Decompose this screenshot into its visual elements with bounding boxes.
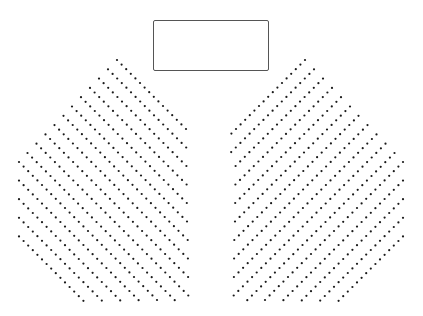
seat xyxy=(162,123,164,125)
seat xyxy=(68,175,70,177)
seat xyxy=(285,151,287,153)
seat xyxy=(352,156,354,158)
seat xyxy=(256,234,258,236)
seat xyxy=(173,225,175,227)
seat xyxy=(181,216,183,218)
seat xyxy=(96,239,98,241)
seat xyxy=(178,285,180,287)
seat xyxy=(95,147,97,149)
seat xyxy=(173,281,175,283)
seat xyxy=(150,258,152,260)
seat xyxy=(393,207,395,209)
seat xyxy=(183,290,185,292)
seat xyxy=(393,245,395,247)
seat xyxy=(282,281,284,283)
seat xyxy=(187,294,189,296)
seat xyxy=(402,180,404,182)
seat xyxy=(131,184,133,186)
seat xyxy=(342,277,344,279)
seat xyxy=(384,198,386,200)
seat xyxy=(123,212,125,214)
seat xyxy=(73,253,75,255)
seat xyxy=(310,272,312,274)
seat xyxy=(32,249,34,251)
seat xyxy=(269,276,271,278)
seat xyxy=(402,198,404,200)
seat xyxy=(279,211,281,213)
seat xyxy=(167,128,169,130)
seat xyxy=(366,180,368,182)
seat xyxy=(36,179,38,181)
seat xyxy=(176,156,178,158)
seat xyxy=(121,119,123,121)
seat xyxy=(146,235,148,237)
seat xyxy=(91,216,93,218)
seat xyxy=(351,212,353,214)
seat xyxy=(270,202,272,204)
seat xyxy=(76,110,78,112)
seat xyxy=(279,248,281,250)
seat xyxy=(239,197,241,199)
seat xyxy=(361,277,363,279)
seat xyxy=(370,268,372,270)
seat xyxy=(269,294,271,296)
seat xyxy=(101,300,103,302)
seat xyxy=(357,189,359,191)
seat xyxy=(293,216,295,218)
seat xyxy=(87,286,89,288)
seat xyxy=(46,207,48,209)
seat xyxy=(294,142,296,144)
seat xyxy=(313,87,315,89)
seat xyxy=(71,105,73,107)
seat xyxy=(77,166,79,168)
seat xyxy=(136,225,138,227)
seat xyxy=(174,299,176,301)
seat xyxy=(379,203,381,205)
seat xyxy=(151,276,153,278)
seat xyxy=(338,225,340,227)
seat xyxy=(282,299,284,301)
seat xyxy=(347,216,349,218)
seat xyxy=(298,156,300,158)
seat xyxy=(357,115,359,117)
seat xyxy=(53,124,55,126)
seat xyxy=(73,291,75,293)
seat xyxy=(86,212,88,214)
seat xyxy=(41,221,43,223)
seat xyxy=(114,221,116,223)
seat xyxy=(347,235,349,237)
seat xyxy=(121,64,123,66)
seat xyxy=(343,166,345,168)
seat xyxy=(233,276,235,278)
seat xyxy=(27,226,29,228)
seat xyxy=(122,156,124,158)
seat xyxy=(104,193,106,195)
seat xyxy=(157,100,159,102)
seat xyxy=(343,147,345,149)
seat xyxy=(155,281,157,283)
seat xyxy=(112,91,114,93)
seat xyxy=(308,147,310,149)
seat xyxy=(32,231,34,233)
seat xyxy=(262,137,264,139)
seat xyxy=(262,174,264,176)
seat xyxy=(308,110,310,112)
seat xyxy=(23,203,25,205)
seat xyxy=(342,258,344,260)
seat xyxy=(302,207,304,209)
seat xyxy=(251,258,253,260)
seat xyxy=(271,128,273,130)
seat xyxy=(276,161,278,163)
seat xyxy=(319,300,321,302)
seat xyxy=(303,133,305,135)
seat xyxy=(158,137,160,139)
seat xyxy=(253,110,255,112)
seat xyxy=(370,175,372,177)
seat xyxy=(36,198,38,200)
seat xyxy=(148,91,150,93)
seat xyxy=(116,59,118,61)
seat xyxy=(335,119,337,121)
seat xyxy=(338,244,340,246)
seat xyxy=(100,189,102,191)
seat xyxy=(299,82,301,84)
